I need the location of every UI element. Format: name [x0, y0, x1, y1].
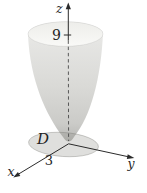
y-axis-label: y: [126, 156, 135, 171]
z-tick-label-9: 9: [52, 27, 61, 43]
paraboloid-over-disk-figure: z 9 D 3 x y: [0, 0, 147, 193]
region-d-label: D: [36, 130, 49, 148]
x-tick-label-3: 3: [45, 153, 53, 168]
paraboloid-rim-opening: [28, 22, 103, 47]
z-axis-label: z: [55, 1, 63, 16]
figure-container: z 9 D 3 x y: [0, 0, 147, 193]
x-axis-label: x: [7, 164, 14, 179]
